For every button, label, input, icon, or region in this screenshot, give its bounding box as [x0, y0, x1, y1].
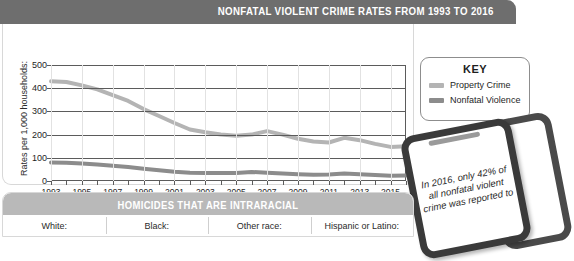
gridline-vertical: [51, 65, 52, 181]
gridline-vertical: [329, 65, 330, 181]
gridline-vertical: [205, 65, 206, 181]
y-axis-tick-label: 100: [32, 153, 47, 163]
table-column: Hispanic or Latino:: [311, 215, 414, 236]
table-column-label: Hispanic or Latino:: [324, 221, 399, 231]
table-column: Other race:: [208, 215, 311, 236]
series-line-nonfatal-violence: [51, 162, 406, 175]
table-column-label: Black:: [144, 221, 169, 231]
gridline-vertical: [391, 65, 392, 181]
y-axis-tick-label: 300: [32, 106, 47, 116]
x-axis-tick-mark: [221, 181, 222, 185]
table-column-row: White:Black:Other race:Hispanic or Latin…: [3, 215, 413, 236]
gridline-vertical: [82, 65, 83, 181]
y-axis-tick-label: 400: [32, 83, 47, 93]
gridline-vertical: [144, 65, 145, 181]
x-axis-tick-mark: [128, 181, 129, 185]
chart-plot-area: 0100200300400500199319951997199920012003…: [51, 65, 406, 181]
page-title: NONFATAL VIOLENT CRIME RATES FROM 1993 T…: [218, 5, 494, 17]
x-axis-tick-mark: [97, 181, 98, 185]
table-column-label: White:: [41, 221, 67, 231]
legend-label-nonfatal-violence: Nonfatal Violence: [450, 95, 520, 105]
x-axis-tick-mark: [51, 181, 52, 185]
x-axis-tick-mark: [329, 181, 330, 185]
x-axis-tick-mark: [313, 181, 314, 185]
x-axis-tick-mark: [159, 181, 160, 185]
x-axis-tick-mark: [391, 181, 392, 185]
y-axis-tick-label: 200: [32, 130, 47, 140]
x-axis-tick-mark: [375, 181, 376, 185]
x-axis-tick-mark: [267, 181, 268, 185]
x-axis-tick-mark: [360, 181, 361, 185]
gridline-vertical: [236, 65, 237, 181]
gridline-vertical: [113, 65, 114, 181]
legend-item-nonfatal-violence: Nonfatal Violence: [429, 95, 529, 105]
x-axis-tick-mark: [205, 181, 206, 185]
x-axis-tick-mark: [82, 181, 83, 185]
x-axis-tick-mark: [252, 181, 253, 185]
chart-header-bar: NONFATAL VIOLENT CRIME RATES FROM 1993 T…: [0, 0, 516, 24]
table-column: Black:: [106, 215, 209, 236]
gridline-horizontal: [51, 158, 406, 159]
gridline-vertical: [298, 65, 299, 181]
x-axis-tick-mark: [113, 181, 114, 185]
legend-title: KEY: [421, 63, 529, 75]
table-title: HOMICIDES THAT ARE INTRARACIAL: [24, 199, 393, 211]
x-axis-tick-mark: [174, 181, 175, 185]
gridline-vertical: [174, 65, 175, 181]
intraracial-homicides-card: HOMICIDES THAT ARE INTRARACIAL White:Bla…: [2, 192, 414, 237]
gridline-vertical: [360, 65, 361, 181]
chart-series-lines: [51, 65, 406, 181]
x-axis-tick-mark: [298, 181, 299, 185]
legend-item-property-crime: Property Crime: [429, 80, 529, 90]
table-header-bar: HOMICIDES THAT ARE INTRARACIAL: [3, 193, 413, 215]
x-axis-tick-mark: [283, 181, 284, 185]
gridline-horizontal: [51, 135, 406, 136]
x-axis-tick-mark: [66, 181, 67, 185]
x-axis-tick-mark: [236, 181, 237, 185]
y-axis-tick-label: 500: [32, 60, 47, 70]
x-axis-tick-mark: [144, 181, 145, 185]
legend-swatch-nonfatal-violence: [429, 98, 444, 103]
series-line-property-crime: [51, 81, 406, 147]
phone-callout: In 2016, only 42% of all nonfatal violen…: [399, 116, 533, 260]
x-axis-tick-mark: [190, 181, 191, 185]
gridline-horizontal: [51, 88, 406, 89]
gridline-horizontal: [51, 111, 406, 112]
gridline-vertical: [267, 65, 268, 181]
legend-label-property-crime: Property Crime: [450, 80, 511, 90]
chart-card: Rates per 1,000 households: 010020030040…: [2, 24, 414, 185]
table-column-label: Other race:: [237, 221, 282, 231]
chart-legend: KEY Property Crime Nonfatal Violence: [420, 57, 530, 121]
x-axis-tick-mark: [344, 181, 345, 185]
legend-swatch-property-crime: [429, 83, 444, 88]
table-column: White:: [3, 215, 106, 236]
